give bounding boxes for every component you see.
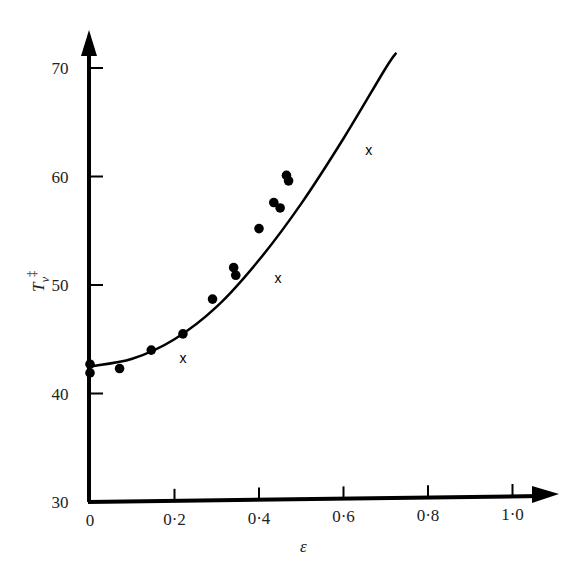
data-point-dot <box>115 364 125 374</box>
fitted-curve-line <box>90 53 396 367</box>
data-point-dot <box>146 345 156 355</box>
x-tick-label: 0·2 <box>163 510 186 529</box>
x-tick-label: 0·6 <box>332 507 355 526</box>
y-tick-label: 70 <box>52 59 69 78</box>
data-points-dots <box>85 171 293 378</box>
x-tick-label: 0·8 <box>417 506 440 525</box>
data-point-dot <box>275 203 285 213</box>
data-point-dot <box>284 176 294 186</box>
data-point-cross: x <box>179 350 186 366</box>
x-axis-label: ε <box>300 537 307 556</box>
y-tick-label: 40 <box>52 385 69 404</box>
data-points-crosses: xxx <box>179 142 372 365</box>
data-point-dot <box>85 368 95 378</box>
x-axis-line <box>88 496 540 502</box>
y-tick-label: 60 <box>52 168 69 187</box>
x-tick-label: 0·4 <box>248 509 271 528</box>
data-point-cross: x <box>365 142 372 158</box>
ticks: 304050607000·20·40·60·81·0 <box>52 59 524 530</box>
y-axis-arrow-icon <box>81 30 97 56</box>
data-point-dot <box>254 224 264 234</box>
svg-text:Tv‡: Tv‡ <box>25 271 52 292</box>
data-point-cross: x <box>275 270 282 286</box>
y-tick-label: 30 <box>52 493 69 512</box>
scatter-chart: 304050607000·20·40·60·81·0 xxx ε Tv‡ <box>0 0 580 577</box>
y-tick-label: 50 <box>52 276 69 295</box>
fitted-curve <box>90 53 396 367</box>
y-axis-label: Tv‡ <box>25 271 52 292</box>
data-point-dot <box>178 329 188 339</box>
x-axis-arrow-icon <box>532 486 559 503</box>
axes <box>81 30 559 503</box>
data-point-dot <box>231 270 241 280</box>
x-tick-label: 0 <box>86 511 95 530</box>
data-point-dot <box>85 359 95 369</box>
data-point-dot <box>208 294 218 304</box>
x-tick-label: 1·0 <box>501 505 524 524</box>
